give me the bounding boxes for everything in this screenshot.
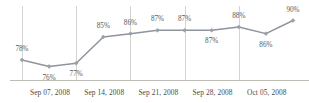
data-point-label: 85% [97,22,110,30]
data-point-label: 76% [43,74,56,82]
x-axis-tick-label: Oct 05, 2008 [247,88,287,97]
data-point-label: 86% [259,41,272,49]
data-series [22,21,293,67]
data-point-label: 77% [70,70,83,78]
x-axis-tick-label: Sep 28, 2008 [193,88,233,97]
data-point-label: 78% [15,45,28,53]
x-axis-tick-label: Sep 21, 2008 [138,88,178,97]
data-point-label: 87% [205,37,218,45]
line-chart: 78%76%77%85%86%87%87%87%88%86%90% Sep 07… [0,0,309,103]
data-point-label: 86% [124,19,137,27]
x-axis-tick-label: Sep 07, 2008 [30,88,70,97]
data-point-label: 87% [178,15,191,23]
data-point-label: 87% [151,15,164,23]
data-point-label: 90% [286,6,299,14]
x-axis-tick-label: Sep 14, 2008 [84,88,124,97]
data-point-markers [20,19,295,69]
data-point-label: 88% [232,12,245,20]
